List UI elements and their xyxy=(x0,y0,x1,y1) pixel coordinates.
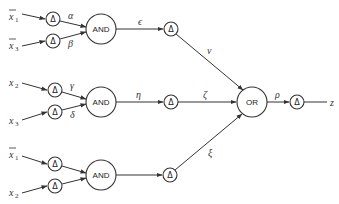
wire-nu xyxy=(176,34,243,90)
input-label-x3-middle: x 3 xyxy=(8,115,19,128)
wire-in2 xyxy=(22,41,45,46)
delay-node-6: Δ xyxy=(48,179,62,193)
svg-text:1: 1 xyxy=(15,16,19,24)
delay-node-9: Δ xyxy=(163,168,177,182)
and-gate-1: AND xyxy=(86,14,116,44)
or-gate: OR xyxy=(237,87,267,117)
svg-text:2: 2 xyxy=(15,192,19,200)
output-label-z: z xyxy=(329,97,334,108)
input-label-x1-bar-top: x 1 xyxy=(8,10,19,24)
delay-node-5: Δ xyxy=(48,157,62,171)
svg-text:AND: AND xyxy=(93,25,110,34)
label-eta: η xyxy=(136,89,141,100)
wire-beta xyxy=(60,32,86,39)
label-nu: ν xyxy=(207,45,212,56)
svg-text:Δ: Δ xyxy=(52,108,58,117)
svg-text:Δ: Δ xyxy=(50,15,56,24)
svg-text:x: x xyxy=(8,187,14,198)
label-xi: ξ xyxy=(208,147,213,159)
svg-text:Δ: Δ xyxy=(50,37,56,46)
svg-text:x: x xyxy=(8,77,14,88)
delay-node-7: Δ xyxy=(164,22,178,36)
label-alpha: α xyxy=(68,10,74,21)
wire-alpha xyxy=(60,21,86,27)
delay-node-output: Δ xyxy=(290,95,304,109)
svg-text:Δ: Δ xyxy=(168,25,174,34)
label-beta: β xyxy=(67,38,73,49)
input-label-x2-bottom: x 2 xyxy=(8,187,19,200)
svg-text:x: x xyxy=(8,115,14,126)
svg-text:x: x xyxy=(8,11,14,22)
wire-in5-and xyxy=(62,166,86,173)
delay-node-8: Δ xyxy=(164,95,178,109)
input-label-x1-bar-bottom: x 1 xyxy=(8,148,19,162)
delay-node-3: Δ xyxy=(48,83,62,97)
logic-diagram: x 1 x 3 x 2 x 3 x 1 x 2 Δ Δ Δ xyxy=(0,0,339,204)
and-gate-3: AND xyxy=(86,160,116,190)
wire-in6 xyxy=(22,186,47,193)
wire-in4 xyxy=(22,112,47,120)
svg-text:x: x xyxy=(8,149,14,160)
svg-text:2: 2 xyxy=(15,82,19,90)
svg-text:3: 3 xyxy=(15,45,19,53)
label-delta: δ xyxy=(70,109,75,120)
label-zeta: ζ xyxy=(203,89,208,101)
svg-text:Δ: Δ xyxy=(167,171,173,180)
svg-text:Δ: Δ xyxy=(52,160,58,169)
svg-text:AND: AND xyxy=(93,171,110,180)
label-epsilon: ϵ xyxy=(138,16,143,27)
svg-text:AND: AND xyxy=(93,98,110,107)
delay-node-2: Δ xyxy=(46,34,60,48)
wire-in1 xyxy=(22,14,45,19)
svg-text:Δ: Δ xyxy=(52,182,58,191)
input-label-x3-bar-top: x 3 xyxy=(8,39,19,53)
input-label-x2-middle: x 2 xyxy=(8,77,19,90)
wire-xi xyxy=(175,114,242,170)
svg-text:Δ: Δ xyxy=(52,86,58,95)
svg-text:OR: OR xyxy=(246,98,258,107)
svg-text:Δ: Δ xyxy=(294,98,300,107)
and-gate-2: AND xyxy=(86,87,116,117)
svg-text:Δ: Δ xyxy=(168,98,174,107)
svg-text:1: 1 xyxy=(15,154,19,162)
wire-gamma xyxy=(62,92,86,99)
label-rho: ρ xyxy=(274,89,280,100)
svg-text:3: 3 xyxy=(15,120,19,128)
delay-node-4: Δ xyxy=(48,105,62,119)
wire-in6-and xyxy=(62,178,86,184)
wire-in5 xyxy=(22,156,47,164)
delay-node-1: Δ xyxy=(46,12,60,26)
wire-in3 xyxy=(22,83,47,90)
svg-text:x: x xyxy=(8,40,14,51)
label-gamma: γ xyxy=(70,80,75,91)
